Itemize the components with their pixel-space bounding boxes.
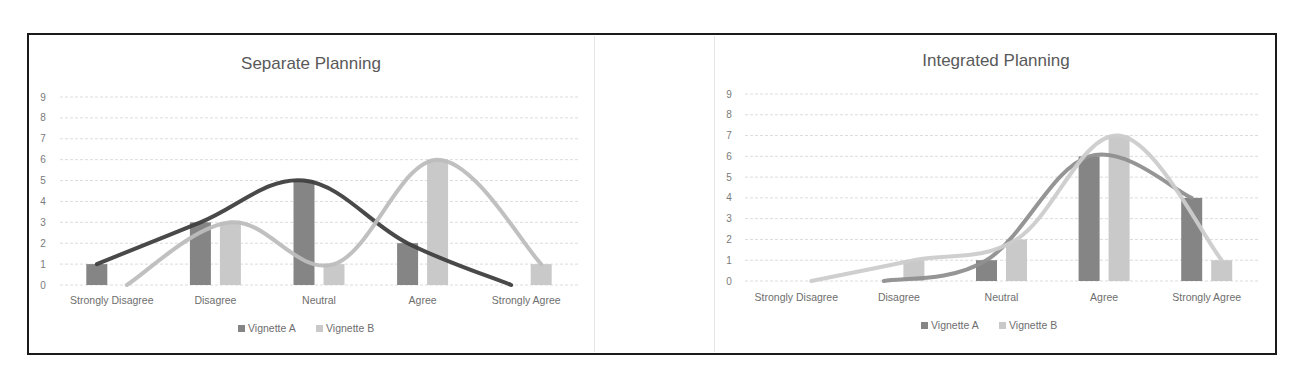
x-category-label: Strongly Disagree <box>70 294 154 306</box>
y-tick-label: 6 <box>726 151 732 162</box>
y-tick-label: 5 <box>40 175 46 186</box>
y-tick-label: 8 <box>40 112 46 123</box>
bar-vignette-a <box>294 181 315 285</box>
y-tick-label: 9 <box>726 89 732 100</box>
y-tick-label: 4 <box>40 196 46 207</box>
legend-label: Vignette A <box>248 322 296 334</box>
x-category-label: Strongly Agree <box>492 294 561 306</box>
y-tick-label: 6 <box>40 154 46 165</box>
bar-vignette-a <box>1079 156 1100 281</box>
x-category-label: Strongly Agree <box>1172 291 1241 303</box>
chart-integrated-planning: Integrated Planning0123456789Strongly Di… <box>726 51 1258 331</box>
x-category-label: Neutral <box>302 294 336 306</box>
bar-vignette-b <box>1211 260 1232 281</box>
y-tick-label: 5 <box>726 172 732 183</box>
y-tick-label: 1 <box>726 255 732 266</box>
y-tick-label: 3 <box>726 213 732 224</box>
y-tick-label: 8 <box>726 109 732 120</box>
legend-label: Vignette B <box>1009 319 1057 331</box>
y-tick-label: 1 <box>40 259 46 270</box>
chart-title: Separate Planning <box>241 54 381 73</box>
legend-swatch-icon <box>921 322 928 329</box>
bar-vignette-b <box>220 222 241 285</box>
legend-swatch-icon <box>316 325 323 332</box>
x-category-label: Neutral <box>985 291 1019 303</box>
x-category-label: Agree <box>1090 291 1118 303</box>
y-tick-label: 3 <box>40 217 46 228</box>
y-tick-label: 7 <box>726 130 732 141</box>
bar-vignette-b <box>427 160 448 285</box>
chart-separate-planning: Separate Planning0123456789Strongly Disa… <box>40 54 578 334</box>
chart-title: Integrated Planning <box>922 51 1069 70</box>
legend-swatch-icon <box>238 325 245 332</box>
y-tick-label: 0 <box>726 276 732 287</box>
y-tick-label: 4 <box>726 192 732 203</box>
legend-swatch-icon <box>999 322 1006 329</box>
bar-vignette-a <box>86 264 107 285</box>
y-tick-label: 9 <box>40 92 46 103</box>
charts-canvas: Separate Planning0123456789Strongly Disa… <box>0 0 1299 375</box>
y-tick-label: 2 <box>40 238 46 249</box>
y-tick-label: 7 <box>40 133 46 144</box>
y-tick-label: 0 <box>40 280 46 291</box>
bar-vignette-a <box>397 243 418 285</box>
y-tick-label: 2 <box>726 234 732 245</box>
legend-label: Vignette A <box>931 319 979 331</box>
legend-label: Vignette B <box>326 322 374 334</box>
x-category-label: Disagree <box>878 291 920 303</box>
bar-vignette-b <box>531 264 552 285</box>
x-category-label: Strongly Disagree <box>755 291 839 303</box>
x-category-label: Agree <box>409 294 437 306</box>
x-category-label: Disagree <box>194 294 236 306</box>
